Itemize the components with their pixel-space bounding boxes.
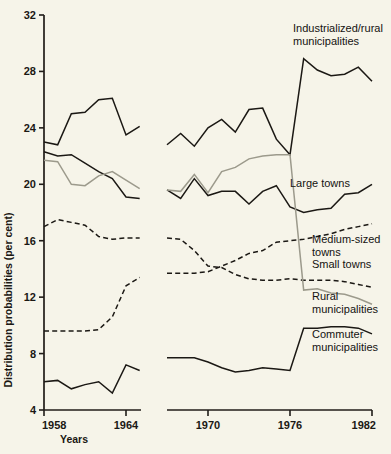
x-axis-tick-label: 1982 [352, 419, 376, 431]
y-axis-tick-label: 24 [24, 122, 37, 134]
series-line-industrialized-rural-municipalities [167, 59, 372, 155]
x-axis-title: Years [60, 433, 88, 445]
x-axis-tick-label: 1970 [196, 419, 220, 431]
series-label-line: municipalities [293, 35, 360, 47]
series-line-commuter-municipalities [44, 365, 140, 393]
series-label-small-towns: Small towns [312, 258, 372, 270]
series-line-rural-municipalities [44, 160, 140, 188]
series-label-line: municipalities [312, 303, 379, 315]
series-label-line: Small towns [312, 258, 372, 270]
y-axis-tick-label: 8 [30, 348, 36, 360]
line-chart: 4812162024283219581964197019761982YearsD… [0, 0, 391, 454]
y-axis-tick-label: 20 [24, 178, 36, 190]
y-axis-title: Distribution probabilities (per cent) [2, 212, 14, 387]
series-label-line: Medium-sized [312, 233, 380, 245]
series-label-line: Commuter [312, 328, 364, 340]
x-axis-tick-label: 1964 [114, 419, 139, 431]
y-axis-tick-label: 16 [24, 235, 36, 247]
y-axis-tick-label: 28 [24, 65, 36, 77]
series-line-medium-sized-towns [44, 220, 140, 240]
series-line-large-towns [44, 152, 140, 199]
chart-container: 4812162024283219581964197019761982YearsD… [0, 0, 391, 454]
series-label-line: Rural [312, 290, 338, 302]
series-label-medium-sized-towns: Medium-sizedtowns [312, 233, 380, 258]
series-label-line: municipalities [312, 341, 379, 353]
y-axis-tick-label: 12 [24, 291, 36, 303]
y-axis-tick-label: 4 [30, 404, 37, 416]
series-label-industrialized-rural: Industrialized/ruralmunicipalities [293, 22, 383, 47]
series-label-line: towns [312, 246, 341, 258]
series-line-small-towns [44, 277, 140, 331]
x-axis-tick-label: 1958 [42, 419, 66, 431]
series-label-large-towns: Large towns [290, 177, 350, 189]
y-axis-tick-label: 32 [24, 9, 36, 21]
series-label-line: Large towns [290, 177, 350, 189]
series-label-line: Industrialized/rural [293, 22, 383, 34]
x-axis-tick-label: 1976 [278, 419, 302, 431]
series-line-industrialized-rural-municipalities [44, 98, 140, 145]
